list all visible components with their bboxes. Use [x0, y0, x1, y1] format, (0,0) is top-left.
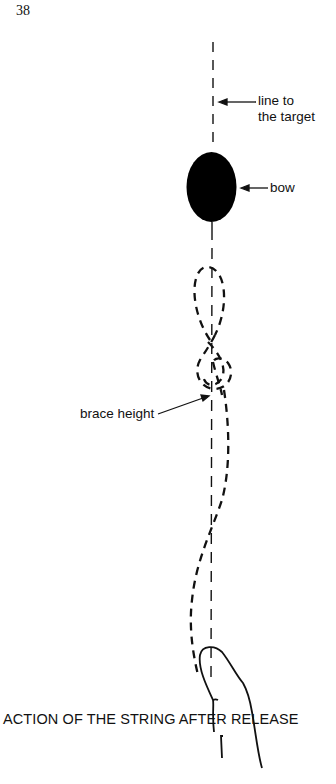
line-to-target-label-line2: the target	[258, 109, 315, 125]
figure-caption: ACTION OF THE STRING AFTER RELEASE	[3, 711, 299, 727]
line-to-target-label-line1: line to	[258, 93, 315, 109]
line-to-target-arrow	[219, 99, 256, 105]
finger-outline	[200, 647, 262, 768]
bow-shape	[187, 152, 237, 222]
target-line	[211, 42, 213, 680]
brace-height-label: brace height	[80, 406, 154, 422]
bow-arrow	[241, 185, 268, 191]
line-to-target-label: line to the target	[258, 93, 315, 125]
bow-label: bow	[270, 180, 295, 196]
brace-height-arrow	[158, 395, 209, 414]
